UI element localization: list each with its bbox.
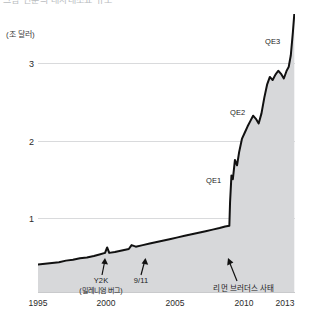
- chart-figure: 그림 연준의 대차대조표 규모 (조 달러) 1 2 3 1995 2000 2…: [0, 0, 315, 331]
- plot-area: [38, 14, 295, 292]
- x-tick-2000: 2000: [97, 298, 116, 308]
- annotation-qe2: QE2: [230, 108, 245, 117]
- cropped-caption: 그림 연준의 대차대조표 규모: [0, 0, 315, 9]
- x-tick-2005: 2005: [166, 298, 185, 308]
- annotation-y2k-sub: (밀레니엄 버그): [79, 285, 123, 295]
- x-tick-2013: 2013: [276, 298, 295, 308]
- arrow-y2k: [96, 258, 110, 276]
- arrow-lehman: [224, 258, 242, 282]
- annotation-lehman: 리먼 브러더스 사태: [213, 282, 274, 293]
- area-fill: [38, 14, 294, 292]
- cropped-caption-text: 그림 연준의 대차대조표 규모: [3, 0, 113, 5]
- annotation-y2k: Y2K: [94, 276, 108, 285]
- annotation-qe1: QE1: [206, 176, 221, 185]
- y-tick-3: 3: [4, 59, 34, 69]
- x-tick-1995: 1995: [29, 298, 48, 308]
- balance-sheet-area-series: [38, 14, 295, 292]
- x-tick-2010: 2010: [235, 298, 254, 308]
- y-axis-tick-labels: 1 2 3: [2, 14, 34, 292]
- annotation-sept11: 9/11: [134, 276, 148, 285]
- annotation-qe3: QE3: [265, 37, 280, 46]
- y-tick-2: 2: [4, 137, 34, 147]
- y-tick-1: 1: [4, 214, 34, 224]
- arrow-sept11: [136, 258, 150, 276]
